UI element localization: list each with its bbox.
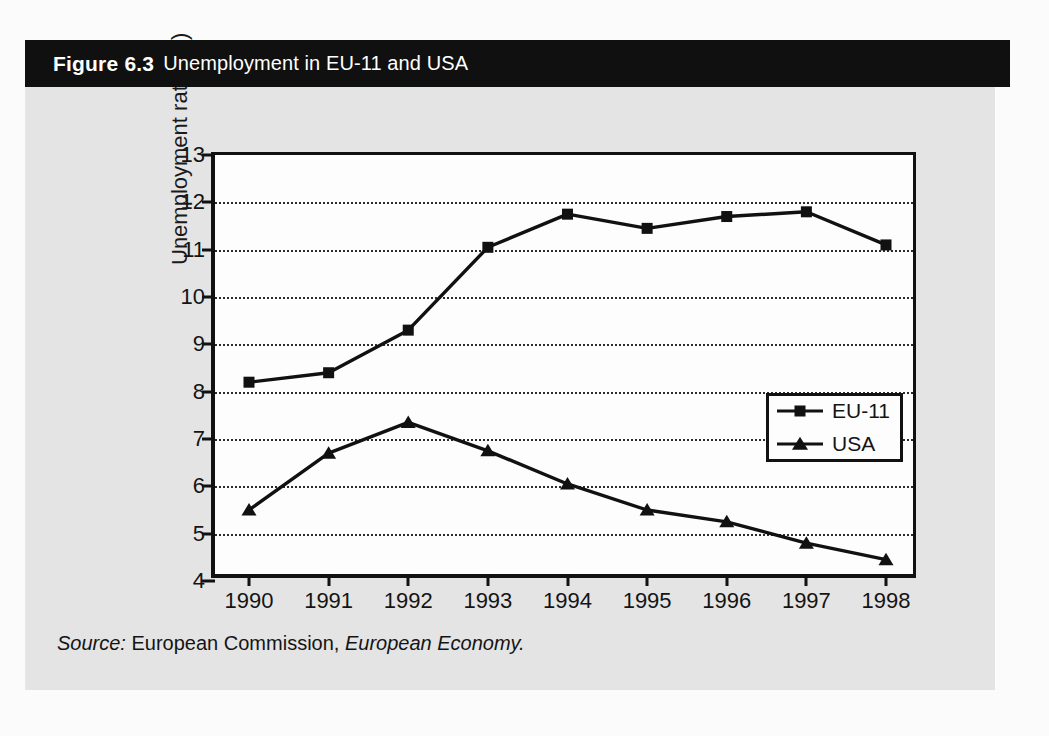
y-tick-label: 5 (193, 521, 205, 547)
y-tick-label: 12 (181, 189, 205, 215)
chart-area: Unemployment rate (%) 45678910111213 199… (0, 0, 1049, 736)
y-tick-label: 11 (182, 237, 205, 263)
figure-title-bar: Figure 6.3 Unemployment in EU-11 and USA (25, 40, 1010, 87)
source-publication: European Economy. (345, 632, 525, 654)
data-point-marker (323, 367, 334, 378)
data-point-marker (244, 377, 255, 388)
x-tick-label: 1996 (702, 588, 751, 614)
series-lines (215, 155, 920, 581)
x-tick-label: 1993 (463, 588, 512, 614)
chart-legend: EU-11 USA (766, 393, 903, 462)
data-point-marker (403, 325, 414, 336)
y-tick-label: 7 (193, 426, 205, 452)
legend-entry-usa: USA (777, 432, 892, 456)
data-point-marker (642, 223, 653, 234)
y-tick-label: 4 (193, 568, 205, 594)
y-tick-label: 8 (193, 379, 205, 405)
data-point-marker (721, 211, 732, 222)
x-tick-label: 1990 (225, 588, 274, 614)
y-tick-label: 13 (181, 142, 205, 168)
x-tick-label: 1997 (782, 588, 831, 614)
data-point-marker (562, 209, 573, 220)
plot-frame: Unemployment rate (%) 45678910111213 199… (211, 152, 916, 578)
x-tick-label: 1994 (543, 588, 592, 614)
x-tick-label: 1998 (862, 588, 911, 614)
data-point-marker (482, 242, 493, 253)
y-tick-label: 9 (193, 331, 205, 357)
series-line-eu-11 (249, 212, 886, 382)
y-tick-label: 10 (181, 284, 205, 310)
source-prefix: Source: (57, 632, 126, 654)
triangle-marker-icon (777, 437, 823, 451)
x-tick-label: 1991 (304, 588, 353, 614)
x-tick-label: 1995 (623, 588, 672, 614)
figure-number-label: Figure 6.3 (53, 52, 154, 76)
data-point-marker (401, 415, 416, 428)
figure-container: Figure 6.3 Unemployment in EU-11 and USA… (0, 0, 1049, 736)
source-note: Source: European Commission, European Ec… (57, 632, 525, 655)
data-point-marker (801, 206, 812, 217)
square-marker-icon (777, 404, 823, 418)
data-point-marker (881, 239, 892, 250)
legend-entry-eu11: EU-11 (777, 399, 892, 423)
legend-label-eu11: EU-11 (832, 399, 890, 423)
figure-title-text: Unemployment in EU-11 and USA (163, 52, 468, 75)
source-publisher: European Commission, (132, 632, 340, 654)
x-tick-label: 1992 (384, 588, 433, 614)
y-tick-label: 6 (193, 473, 205, 499)
legend-label-usa: USA (832, 432, 875, 456)
